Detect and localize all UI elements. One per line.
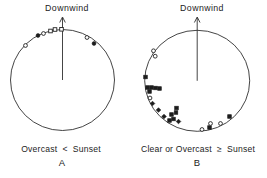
downwind-label-b: Downwind: [152, 4, 252, 13]
diagram-panel-a: [11, 17, 115, 131]
downwind-label-a: Downwind: [17, 4, 117, 13]
open-circle-point: [153, 54, 157, 58]
filled-square-point: [228, 115, 232, 119]
filled-square-point: [148, 90, 152, 94]
orientation-figure: Downwind Downwind Overcast < Sunset Clea…: [0, 0, 267, 178]
filled-square-point: [170, 113, 174, 117]
filled-circle-point: [36, 34, 40, 38]
open-circle-point: [148, 96, 152, 100]
diagram-panel-b: [144, 17, 250, 131]
panel-letter-a: A: [12, 158, 112, 168]
filled-square-point: [150, 86, 154, 90]
open-square-point: [49, 29, 53, 33]
caption-panel-a: Overcast < Sunset: [10, 145, 112, 154]
filled-square-point: [154, 86, 158, 90]
filled-square-point: [175, 106, 179, 110]
filled-diamond-point: [176, 119, 181, 124]
filled-square-point: [146, 86, 150, 90]
caption-panel-b: Clear or Overcast ≥ Sunset: [136, 145, 260, 154]
panel-letter-b: B: [147, 158, 247, 168]
filled-square-point: [168, 119, 172, 123]
filled-square-point: [208, 126, 212, 130]
open-circle-point: [219, 122, 223, 126]
open-circle-point: [209, 122, 213, 126]
open-square-point: [60, 28, 64, 32]
open-circle-point: [200, 128, 204, 132]
filled-square-point: [174, 111, 178, 115]
open-circle-point: [42, 32, 46, 36]
open-square-point: [53, 28, 57, 32]
filled-square-point: [144, 75, 148, 79]
filled-square-point: [158, 87, 162, 91]
filled-diamond-point: [156, 108, 161, 113]
open-circle-point: [24, 44, 28, 48]
open-circle-point: [85, 36, 89, 40]
filled-circle-point: [92, 42, 96, 46]
filled-square-point: [172, 117, 176, 121]
open-circle-point: [152, 49, 156, 53]
